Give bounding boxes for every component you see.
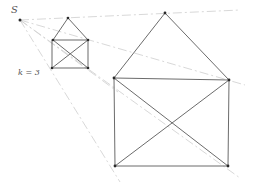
small-bottom-left-point (51, 67, 54, 70)
small-top-left-point (52, 39, 55, 42)
ray-apex (20, 10, 240, 20)
construction-lines (20, 10, 245, 182)
large-top-right-point (228, 79, 231, 82)
large-roof (114, 13, 229, 80)
large-top-left-point (113, 77, 116, 80)
homothety-diagram: S k = 3 (0, 0, 253, 186)
center-label: S (11, 4, 18, 15)
small-house (51, 17, 90, 70)
scale-factor-label: k = 3 (18, 68, 40, 77)
small-roof (53, 18, 88, 40)
small-bottom-right-point (87, 67, 90, 70)
small-top-right-point (87, 39, 90, 42)
ray-top-left (20, 20, 118, 92)
large-bottom-left-point (114, 165, 117, 168)
center-point (19, 19, 22, 22)
large-bottom-right-point (227, 165, 230, 168)
large-diagonal-1 (114, 78, 228, 166)
large-apex-point (164, 12, 167, 15)
large-house (113, 12, 231, 168)
small-apex-point (67, 17, 70, 20)
